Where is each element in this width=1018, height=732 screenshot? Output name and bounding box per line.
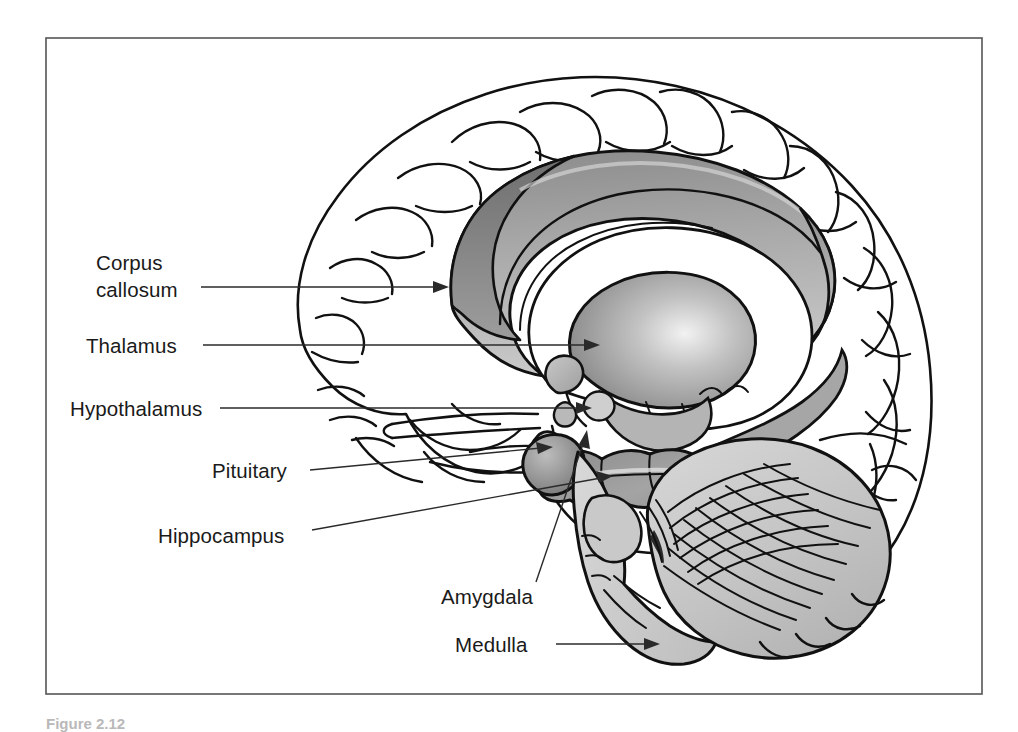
label-hypothalamus[interactable]: Hypothalamus [70,397,202,420]
label-corpus-callosum-line1: Corpus [96,251,163,274]
thalamus [569,272,755,408]
figure-caption-text: Figure 2.12 [46,715,125,732]
label-corpus-callosum[interactable]: Corpus callosum [96,251,178,301]
figure-caption: Figure 2.12 [46,715,125,732]
label-amygdala[interactable]: Amygdala [441,585,533,608]
label-hippocampus[interactable]: Hippocampus [158,524,284,547]
label-pituitary[interactable]: Pituitary [212,459,288,482]
label-hippocampus-text: Hippocampus [158,524,284,547]
arrowhead-corpus-callosum [433,281,449,293]
figure-root: Corpus callosum Thalamus Hypothalamus Pi… [0,0,1018,732]
brain-diagram-svg: Corpus callosum Thalamus Hypothalamus Pi… [0,0,1018,732]
label-amygdala-text: Amygdala [441,585,533,608]
label-pituitary-text: Pituitary [212,459,288,482]
label-thalamus-text: Thalamus [86,334,177,357]
label-corpus-callosum-line2: callosum [96,278,178,301]
cortex-sulci-temporal [356,404,520,482]
optic-nerve-upper [392,413,538,424]
fornix [545,356,583,393]
occipital-cerebellar-notch [872,466,916,480]
leader-pituitary [310,448,541,470]
anterior-commissure [584,392,615,421]
label-hypothalamus-text: Hypothalamus [70,397,202,420]
brain-illustration [298,77,932,664]
optic-chiasm-tip [384,424,392,438]
mammillary-body [554,403,576,427]
label-medulla[interactable]: Medulla [455,633,528,656]
label-medulla-text: Medulla [455,633,528,656]
arrowhead-amygdala [578,430,590,449]
tentorium-line [820,434,906,444]
label-thalamus[interactable]: Thalamus [86,334,177,357]
